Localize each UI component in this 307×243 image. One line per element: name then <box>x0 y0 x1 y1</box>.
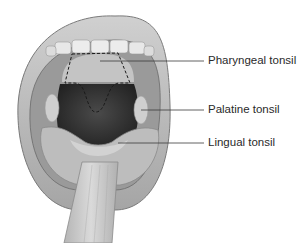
tonsil-anatomy-illustration <box>0 0 307 243</box>
lingual-tonsil-label: Lingual tonsil <box>208 137 275 149</box>
palatine-tonsil-label: Palatine tonsil <box>208 104 280 116</box>
pharyngeal-tonsil-label: Pharyngeal tonsil <box>208 55 296 67</box>
